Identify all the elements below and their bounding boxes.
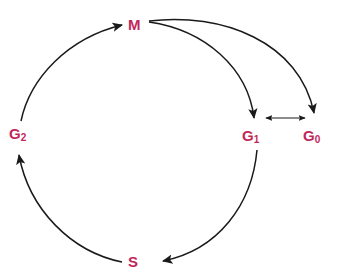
cycle-arrows-svg xyxy=(0,0,337,276)
arrow-s-to-g2 xyxy=(19,155,122,262)
node-label-s-text: S xyxy=(128,253,138,270)
node-label-g1-text: G xyxy=(242,127,254,144)
node-label-g0-subscript: 0 xyxy=(315,134,321,145)
node-label-g1: G1 xyxy=(242,128,259,143)
arrow-m-to-g1 xyxy=(149,22,254,118)
node-label-g2-text: G xyxy=(9,125,21,142)
node-label-g1-subscript: 1 xyxy=(254,134,260,145)
node-label-g0: G0 xyxy=(303,128,320,143)
node-label-s: S xyxy=(128,254,138,269)
node-label-g2: G2 xyxy=(9,126,26,141)
arrow-g1-to-s xyxy=(163,150,257,261)
arrow-g2-to-m xyxy=(21,25,122,121)
node-label-m-text: M xyxy=(128,16,141,33)
node-label-m: M xyxy=(128,17,141,32)
node-label-g0-text: G xyxy=(303,127,315,144)
cell-cycle-diagram: M G1 G0 G2 S xyxy=(0,0,337,276)
node-label-g2-subscript: 2 xyxy=(21,132,27,143)
